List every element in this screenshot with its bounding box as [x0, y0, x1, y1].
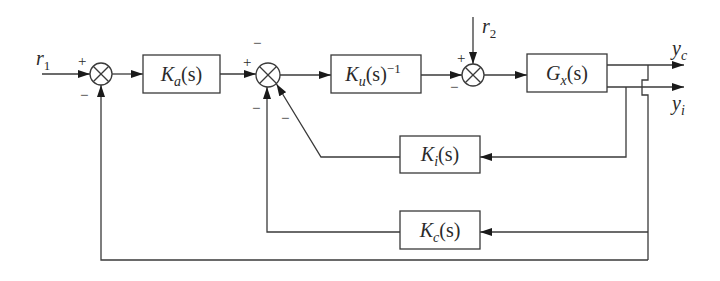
ka-block: Ka(s): [143, 55, 220, 93]
kc-to-j2-wire: [267, 87, 400, 232]
summing-junction-1: [90, 63, 112, 85]
junction-2-top-minus-sign: −: [253, 35, 261, 51]
gx-plant-block: Gx(s): [527, 54, 607, 92]
junction-1-plus-sign: +: [78, 53, 86, 69]
summing-junction-2: [256, 63, 280, 87]
yc-tap-wire: [642, 65, 648, 260]
ki-to-j2-wire: [277, 84, 401, 157]
junction-3-minus-sign: −: [450, 79, 458, 95]
junction-3-plus-sign: +: [457, 50, 465, 66]
ku-inverse-block: Ku(s)−1: [331, 55, 421, 93]
ki-block: Ki(s): [400, 136, 480, 173]
yi-tap-to-ki-wire: [480, 87, 626, 157]
summing-junction-3: [462, 64, 484, 86]
r1-label: r1: [36, 47, 50, 73]
outer-feedback-wire: [101, 85, 648, 260]
yi-label: yi: [670, 92, 685, 118]
kc-block: Kc(s): [400, 211, 480, 249]
junction-2-ki-minus-sign: −: [281, 110, 289, 126]
junction-1-minus-sign: −: [80, 87, 88, 103]
yc-label: yc: [670, 37, 688, 63]
r2-label: r2: [482, 15, 496, 41]
junction-2-plus-sign: +: [243, 54, 251, 70]
junction-2-kc-minus-sign: −: [252, 100, 260, 116]
block-diagram: r1 + − Ka(s) + − − − Ku(s)−1 r2 +: [0, 0, 720, 281]
